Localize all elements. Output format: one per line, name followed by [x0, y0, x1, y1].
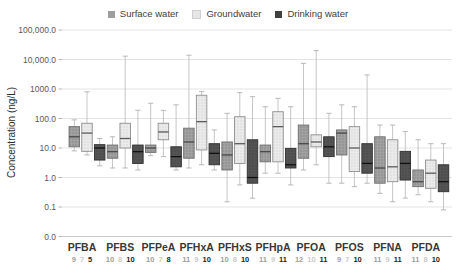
boxplot-chart: Surface waterGroundwaterDrinking water C… — [0, 0, 456, 278]
y-tick-label: 0.1 — [44, 202, 56, 212]
box-PFNA-0 — [375, 137, 386, 183]
count-label: 11910 — [182, 255, 210, 264]
box-PFDA-1 — [426, 160, 437, 188]
box-layer — [69, 51, 449, 210]
box-PFBA-2 — [94, 145, 105, 160]
box-PFOA-1 — [311, 135, 322, 147]
box-PFHxS-2 — [247, 140, 258, 183]
y-tick-label: 0.0 — [44, 232, 56, 242]
box-PFNA-1 — [387, 140, 398, 182]
category-label: PFOA — [297, 241, 327, 253]
box-PFNA-2 — [400, 151, 411, 180]
box-PFPeA-0 — [145, 145, 156, 152]
box-PFOS-1 — [349, 127, 360, 172]
count-label: 11911 — [374, 255, 402, 264]
box-PFOA-0 — [298, 125, 309, 158]
category-label: PFHxA — [179, 241, 214, 253]
boxplot-svg: 100,000.010,000.01000.0100.010.01.00.10.… — [0, 0, 456, 278]
box-PFHpA-0 — [260, 145, 271, 162]
box-PFHxA-0 — [184, 128, 195, 158]
count-label: 11911 — [259, 255, 287, 264]
category-label: PFPeA — [141, 241, 175, 253]
box-PFHpA-1 — [273, 112, 284, 162]
y-tick-label: 1000.0 — [30, 84, 56, 94]
category-label: PFBS — [106, 241, 134, 253]
category-label: PFNA — [373, 241, 402, 253]
y-tick-label: 1.0 — [44, 173, 56, 183]
count-label: 10810 — [106, 255, 135, 264]
category-label: PFHxS — [218, 241, 252, 253]
y-tick-label: 10,000.0 — [23, 55, 56, 65]
category-label: PFHpA — [256, 241, 291, 253]
category-label: PFDA — [412, 241, 441, 253]
category-label: PFOS — [335, 241, 364, 253]
y-tick-label: 100,000.0 — [18, 25, 56, 35]
box-PFHxS-1 — [235, 117, 246, 164]
box-PFOS-2 — [362, 144, 373, 174]
count-label: 121011 — [295, 255, 328, 264]
category-label: PFBA — [68, 241, 97, 253]
box-PFHxA-1 — [196, 95, 207, 150]
box-PFBA-1 — [82, 123, 93, 151]
y-tick-label: 10.0 — [39, 143, 56, 153]
y-tick-label: 100.0 — [35, 114, 57, 124]
box-PFBS-2 — [133, 145, 144, 163]
box-PFHxA-2 — [209, 144, 220, 165]
count-label: 11810 — [412, 255, 440, 264]
count-label: 9710 — [337, 255, 362, 264]
count-label: 975 — [72, 255, 93, 264]
count-label: 10810 — [220, 255, 249, 264]
box-PFDA-0 — [413, 170, 424, 187]
box-PFBS-1 — [120, 123, 131, 148]
box-PFDA-2 — [438, 165, 449, 192]
box-PFHxS-0 — [222, 142, 233, 170]
count-label: 1078 — [146, 255, 171, 264]
